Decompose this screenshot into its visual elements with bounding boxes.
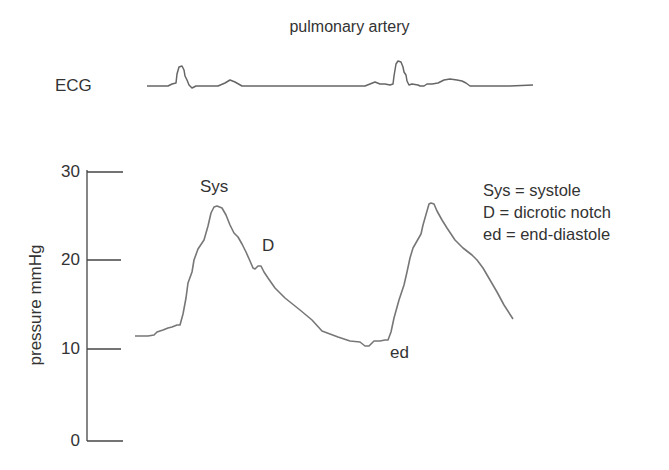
pressure-trace bbox=[135, 203, 513, 346]
ecg-trace bbox=[147, 61, 533, 88]
y-axis-label: pressure mmHg bbox=[26, 245, 46, 366]
annotation-ed: ed bbox=[390, 343, 409, 363]
legend-item-ed: ed = end-diastole bbox=[483, 223, 611, 245]
y-tick-label-0: 0 bbox=[40, 431, 80, 451]
annotation-sys: Sys bbox=[200, 177, 228, 197]
legend: Sys = systole D = dicrotic notch ed = en… bbox=[483, 179, 611, 245]
legend-item-sys: Sys = systole bbox=[483, 179, 611, 201]
y-tick-label-10: 10 bbox=[40, 339, 80, 359]
annotation-d: D bbox=[262, 236, 274, 256]
legend-item-d: D = dicrotic notch bbox=[483, 201, 611, 223]
y-tick-label-20: 20 bbox=[40, 250, 80, 270]
y-tick-label-30: 30 bbox=[40, 162, 80, 182]
